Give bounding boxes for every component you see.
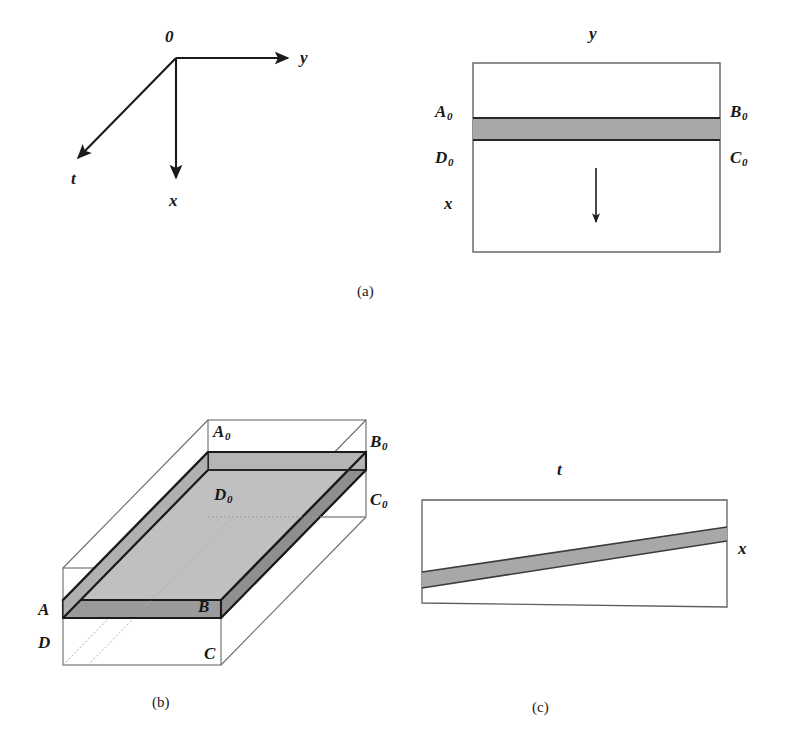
axis-label-t: t — [71, 170, 76, 187]
panel-a-corner-d0-letter: D — [435, 148, 447, 167]
panel-a-corner-d0: D0 — [435, 149, 454, 168]
panel-a-corner-a0-letter: A — [435, 102, 447, 121]
panel-b-corner-a0-letter: A — [213, 422, 225, 441]
panel-a-corner-b0-subscript: 0 — [742, 110, 748, 122]
panel-a-corner-a0-subscript: 0 — [447, 110, 453, 122]
panel-a-corner-d0-subscript: 0 — [448, 156, 454, 168]
axis-label-x: x — [169, 192, 178, 209]
caption-a: (a) — [357, 284, 374, 299]
figure-graphics — [0, 0, 787, 748]
panel-b-box-graphic — [63, 420, 366, 665]
panel-a-axes-graphic — [78, 58, 288, 178]
axis-label-y: y — [300, 49, 308, 66]
t-axis-line — [78, 58, 176, 158]
slab-back-face — [208, 452, 366, 470]
panel-a-corner-c0-subscript: 0 — [742, 156, 748, 168]
panel-c-right-label-x: x — [738, 540, 747, 557]
panel-b-corner-b0-subscript: 0 — [382, 440, 388, 452]
axis-origin-label: 0 — [165, 28, 174, 45]
panel-a-corner-a0: A0 — [435, 103, 453, 122]
panel-a-top-label-y: y — [589, 25, 597, 42]
panel-a-corner-c0-letter: C — [730, 148, 742, 167]
panel-b-corner-c0-letter: C — [370, 490, 382, 509]
panel-a-band — [473, 118, 720, 140]
panel-b-corner-d0-subscript: 0 — [227, 493, 233, 505]
panel-b-corner-b0-letter: B — [370, 432, 382, 451]
caption-b: (b) — [152, 695, 170, 710]
panel-b-corner-d0: D0 — [214, 486, 233, 505]
panel-a-corner-b0-letter: B — [730, 102, 742, 121]
panel-a-corner-c0: C0 — [730, 149, 748, 168]
panel-a-corner-b0: B0 — [730, 103, 748, 122]
panel-a-rect-graphic — [473, 63, 720, 252]
panel-b-corner-c: C — [204, 645, 216, 662]
panel-b-corner-c0-subscript: 0 — [382, 498, 388, 510]
panel-a-left-label-x: x — [444, 195, 453, 212]
panel-b-corner-d0-letter: D — [214, 485, 226, 504]
caption-c: (c) — [532, 700, 549, 715]
panel-c-top-label-t: t — [557, 461, 562, 478]
panel-b-corner-a0-subscript: 0 — [225, 430, 231, 442]
panel-a-rectangle — [473, 63, 720, 252]
panel-b-corner-b: B — [198, 598, 210, 615]
panel-c-rect-graphic — [422, 500, 727, 607]
panel-b-corner-d: D — [38, 634, 50, 651]
panel-b-corner-a: A — [38, 601, 50, 618]
panel-b-corner-c0: C0 — [370, 491, 388, 510]
panel-b-corner-b0: B0 — [370, 433, 388, 452]
slab-top-surface — [63, 452, 366, 600]
panel-b-corner-a0: A0 — [213, 423, 231, 442]
figure-root: 0 y x t y x A0 B0 D0 C0 A0 B0 D0 C0 A B … — [0, 0, 787, 748]
